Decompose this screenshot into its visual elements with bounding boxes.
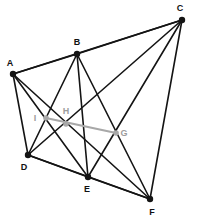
edge-layer <box>13 20 182 199</box>
vertex-point-f <box>147 196 153 202</box>
vertex-label-f: F <box>149 208 155 217</box>
vertex-label-h: H <box>63 107 70 116</box>
vertex-label-d: D <box>21 163 28 172</box>
vertex-point-c <box>179 17 185 23</box>
vertex-label-c: C <box>177 4 184 13</box>
geometry-figure: ABCDEFGHI <box>0 0 198 224</box>
edge-cd <box>28 20 182 155</box>
figure-canvas <box>0 0 198 224</box>
vertex-point-b <box>74 51 80 57</box>
vertex-point-e <box>85 174 91 180</box>
vertex-point-h <box>63 121 69 127</box>
vertex-layer <box>10 17 185 202</box>
vertex-label-e: E <box>84 185 90 194</box>
vertex-label-g: G <box>120 129 127 138</box>
vertex-point-g <box>113 130 119 136</box>
vertex-point-a <box>10 71 16 77</box>
vertex-label-b: B <box>74 38 81 47</box>
vertex-label-a: A <box>7 59 14 68</box>
edge-bc <box>77 20 182 54</box>
edge-af <box>13 74 150 199</box>
vertex-point-i <box>43 115 49 121</box>
vertex-label-i: I <box>34 114 37 123</box>
vertex-point-d <box>25 152 31 158</box>
